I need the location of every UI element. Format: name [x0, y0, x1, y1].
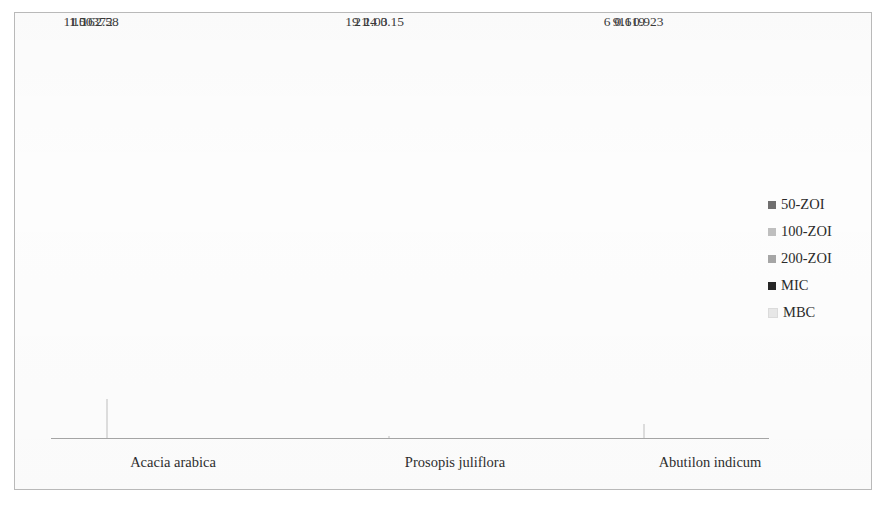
- legend-label: MBC: [783, 305, 815, 320]
- bar-mbc: [643, 424, 645, 438]
- legend-swatch-icon: [768, 201, 776, 209]
- bar-slot: 2.58: [106, 31, 108, 438]
- legend-item-200-zoi: 200-ZOI: [768, 245, 863, 272]
- legend-swatch-icon: [768, 255, 776, 263]
- bar-mbc: [106, 399, 108, 438]
- legend-label: 100-ZOI: [781, 224, 832, 239]
- legend-item-mbc: MBC: [768, 299, 863, 326]
- category-label: Prosopis juliflora: [352, 454, 558, 471]
- legend-swatch-icon: [768, 308, 778, 318]
- legend-label: 50-ZOI: [781, 197, 825, 212]
- figure-root: 1115161.003722.581921241.030.1569110.619…: [0, 0, 886, 506]
- legend-item-100-zoi: 100-ZOI: [768, 218, 863, 245]
- category-axis-line: [51, 438, 769, 439]
- bar-value-label: 2.58: [95, 15, 119, 29]
- category-label: Acacia arabica: [70, 454, 276, 471]
- bar-value-label: 6: [604, 15, 611, 29]
- bar-slot: 0.15: [388, 31, 390, 438]
- chart-legend: 50-ZOI100-ZOI200-ZOIMICMBC: [768, 191, 863, 326]
- legend-label: 200-ZOI: [781, 251, 832, 266]
- legend-swatch-icon: [768, 282, 776, 290]
- legend-item-50-zoi: 50-ZOI: [768, 191, 863, 218]
- category-label: Abutilon indicum: [607, 454, 813, 471]
- bar-value-label: 0.15: [380, 15, 404, 29]
- legend-swatch-icon: [768, 228, 776, 236]
- legend-item-mic: MIC: [768, 272, 863, 299]
- legend-label: MIC: [781, 278, 808, 293]
- figure-frame: 1115161.003722.581921241.030.1569110.619…: [14, 12, 872, 490]
- plot-area: [51, 31, 751, 439]
- bar-slot: 0.923: [643, 31, 645, 438]
- bar-value-label: 0.923: [633, 15, 663, 29]
- bar-mbc: [388, 436, 390, 438]
